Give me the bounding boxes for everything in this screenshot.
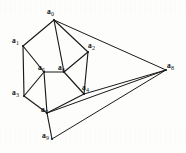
vertex-label-subscript: 2 — [92, 45, 95, 51]
vertex-label-a4: a4 — [82, 84, 89, 93]
graph-vertex-a0 — [53, 19, 55, 21]
vertex-label-a3: a3 — [12, 89, 19, 98]
vertex-label-subscript: 4 — [86, 87, 89, 93]
graph-figure: a0a1a2a3a4a5a6a7a8a9 — [0, 0, 186, 153]
vertex-label-a0: a0 — [47, 8, 54, 17]
graph-edge-a4-a8 — [84, 70, 166, 94]
graph-edge-a0-a8 — [54, 20, 166, 70]
vertex-label-subscript: 5 — [42, 67, 45, 73]
graph-edge-a3-a5 — [24, 72, 44, 96]
vertex-label-a9: a9 — [42, 132, 49, 141]
vertex-label-a6: a6 — [58, 64, 65, 73]
graph-vertex-a9 — [51, 138, 53, 140]
vertex-label-subscript: 6 — [62, 67, 65, 73]
vertex-label-subscript: 0 — [51, 11, 54, 17]
graph-edge-a4-a6 — [64, 72, 84, 94]
vertex-label-subscript: 9 — [46, 135, 49, 141]
vertex-label-subscript: 1 — [16, 40, 19, 46]
vertex-layer — [22, 19, 167, 140]
graph-vertex-a1 — [22, 45, 24, 47]
vertex-label-subscript: 8 — [171, 65, 174, 71]
graph-canvas — [0, 0, 186, 153]
vertex-label-subscript: 7 — [45, 109, 48, 115]
graph-edge-a0-a1 — [23, 20, 54, 46]
edge-layer — [23, 20, 166, 139]
vertex-label-a2: a2 — [88, 42, 95, 51]
graph-vertex-a2 — [87, 51, 89, 53]
graph-edge-a2-a6 — [64, 52, 88, 72]
vertex-label-a5: a5 — [38, 64, 45, 73]
vertex-label-a8: a8 — [167, 62, 174, 71]
graph-vertex-a3 — [23, 95, 25, 97]
graph-edge-a4-a7 — [47, 94, 84, 113]
graph-vertex-a4 — [83, 93, 85, 95]
graph-edge-a1-a3 — [23, 46, 24, 96]
vertex-label-a7: a7 — [41, 106, 48, 115]
vertex-label-a1: a1 — [12, 37, 19, 46]
vertex-label-subscript: 3 — [16, 92, 19, 98]
